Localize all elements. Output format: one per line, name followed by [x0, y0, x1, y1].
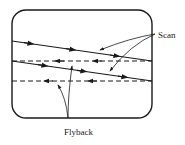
scan-line-2 — [12, 61, 152, 81]
flyback-label: Flyback — [64, 127, 93, 137]
scan-label: Scan — [158, 30, 176, 40]
scan-line-1 — [12, 41, 152, 61]
flyback-callout: Flyback — [58, 66, 93, 137]
raster-scan-diagram: Scan Flyback — [0, 0, 185, 145]
scan-callout: Scan — [100, 30, 176, 71]
